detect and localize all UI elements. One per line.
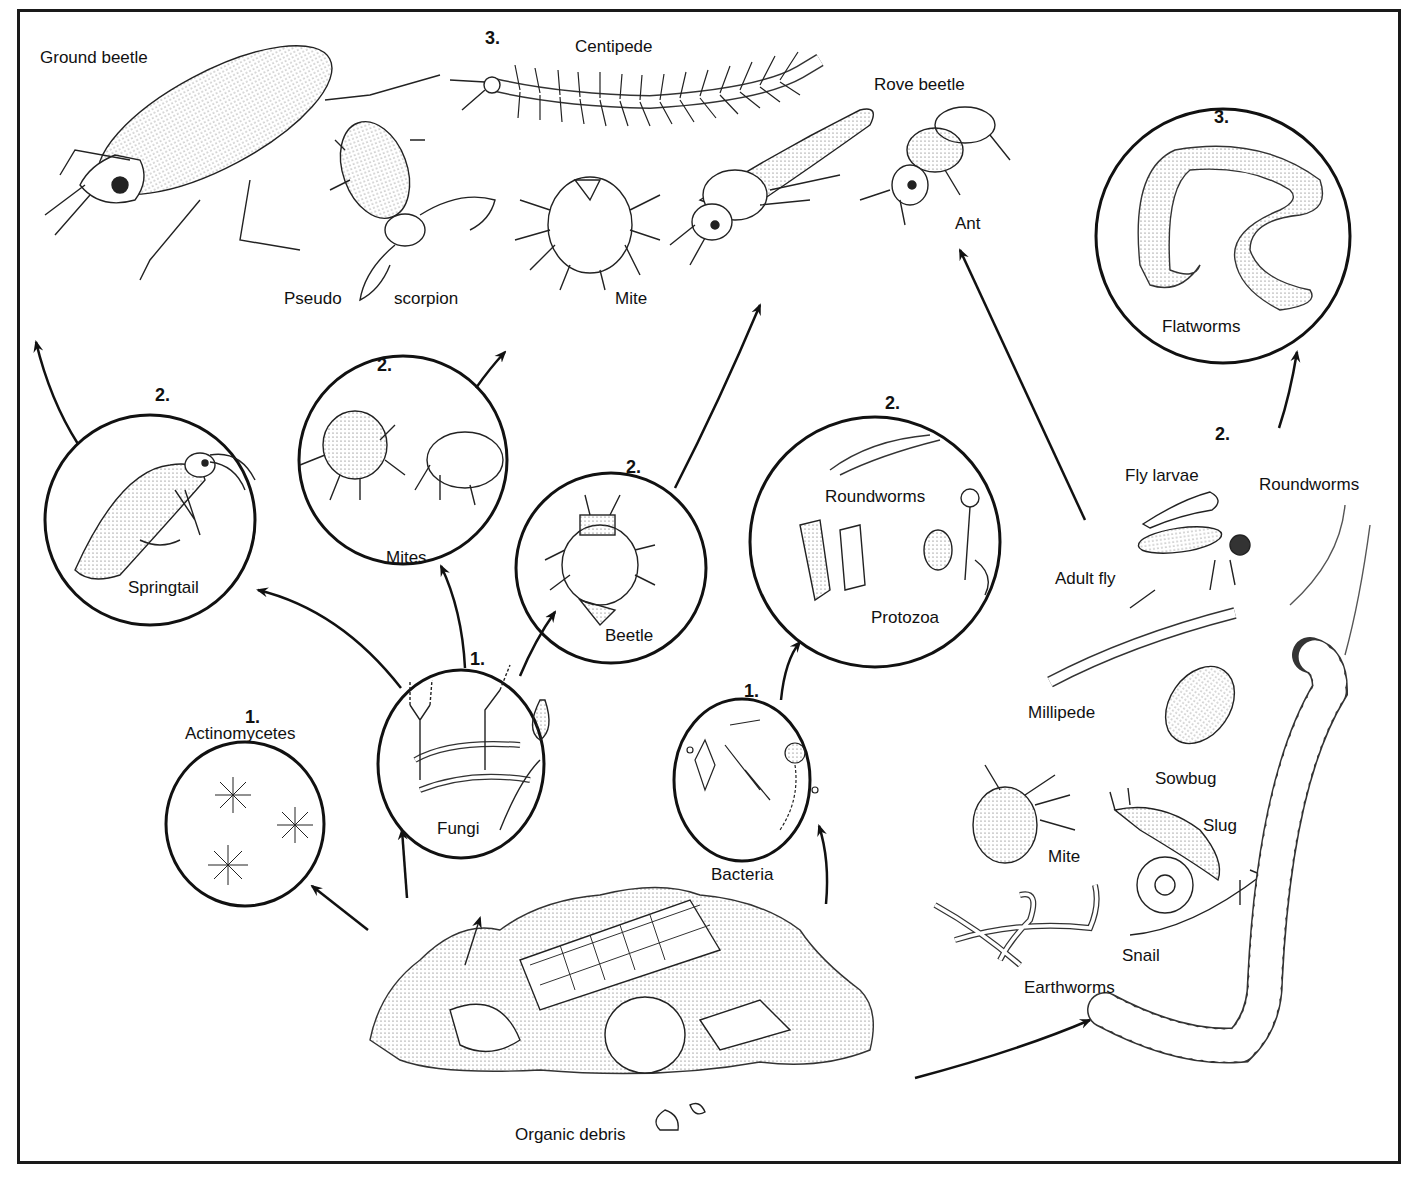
level-2-beetle-number: 2. <box>626 458 641 476</box>
mites-icon <box>300 411 503 505</box>
actinomycetes-circle <box>166 742 324 906</box>
level-1-bacteria-number: 1. <box>744 682 759 700</box>
centipede-icon <box>450 52 820 126</box>
fungi-icon <box>410 665 549 830</box>
label-actinomycetes: Actinomycetes <box>185 725 296 742</box>
snail-icon <box>1130 857 1262 935</box>
label-roundworms-circle: Roundworms <box>825 488 925 505</box>
arrow-debris-to-actinomycetes <box>312 886 368 930</box>
label-mites: Mites <box>386 549 427 566</box>
level-1-fungi-number: 1. <box>470 650 485 668</box>
level-3-flatworms-number: 3. <box>1214 108 1229 126</box>
label-organic-debris: Organic debris <box>515 1126 626 1143</box>
pseudoscorpion-icon <box>328 112 495 300</box>
label-roundworms-detritivore: Roundworms <box>1259 476 1359 493</box>
level-2-mites-number: 2. <box>377 356 392 374</box>
adult-fly-icon <box>1130 522 1250 608</box>
beetle-icon <box>545 495 655 625</box>
arrow-fungi-to-beetle <box>520 612 555 676</box>
label-flatworms: Flatworms <box>1162 318 1240 335</box>
label-fungi: Fungi <box>437 820 480 837</box>
arrow-springtail-to-predators <box>36 342 78 444</box>
level-2-protozoa-number: 2. <box>885 394 900 412</box>
mite-predator-icon <box>515 177 660 290</box>
roundworms-protozoa-icon <box>800 435 988 600</box>
level-2-springtail-number: 2. <box>155 386 170 404</box>
flatworm-icon <box>1138 146 1322 310</box>
arrow-debris-to-fungi <box>402 830 407 898</box>
label-rove-beetle: Rove beetle <box>874 76 965 93</box>
actinomycetes-icon <box>208 777 313 885</box>
label-ground-beetle: Ground beetle <box>40 49 148 66</box>
arrow-debris-to-bacteria <box>819 826 827 904</box>
arrow-bacteria-to-protozoa <box>781 642 800 700</box>
label-ant: Ant <box>955 215 981 232</box>
label-bacteria: Bacteria <box>711 866 773 883</box>
arrow-mites-to-predators <box>476 352 505 388</box>
label-slug: Slug <box>1203 817 1237 834</box>
arrow-detritivores-to-predators <box>960 250 1085 520</box>
label-centipede: Centipede <box>575 38 653 55</box>
fly-roundworms-icon <box>1290 505 1370 655</box>
ant-icon <box>860 107 1010 225</box>
arrow-beetle-to-predators <box>675 305 760 488</box>
fly-larvae-icon <box>1143 492 1218 528</box>
label-adult-fly: Adult fly <box>1055 570 1115 587</box>
label-sowbug: Sowbug <box>1155 770 1216 787</box>
organic-debris-icon <box>370 888 873 1131</box>
label-fly-larvae: Fly larvae <box>1125 467 1199 484</box>
level-2-detritivores-number: 2. <box>1215 425 1230 443</box>
rove-beetle-icon <box>670 109 873 265</box>
arrow-detritivores-to-flatworms <box>1279 352 1297 428</box>
label-snail: Snail <box>1122 947 1160 964</box>
roundworms-protozoa-circle <box>750 417 1000 667</box>
label-earthworms: Earthworms <box>1024 979 1115 996</box>
label-mite-detritivore: Mite <box>1048 848 1080 865</box>
label-mite-predator: Mite <box>615 290 647 307</box>
label-beetle: Beetle <box>605 627 653 644</box>
arrow-fungi-to-springtail <box>258 590 401 688</box>
arrow-debris-to-detritivores <box>915 1020 1090 1078</box>
springtail-icon <box>75 453 255 579</box>
level-3-predators-number: 3. <box>485 29 500 47</box>
label-millipede: Millipede <box>1028 704 1095 721</box>
label-scorpion: scorpion <box>394 290 458 307</box>
sowbug-icon <box>1151 653 1248 756</box>
label-protozoa: Protozoa <box>871 609 939 626</box>
label-springtail: Springtail <box>128 579 199 596</box>
food-web-artwork <box>0 0 1425 1181</box>
label-pseudo: Pseudo <box>284 290 342 307</box>
earthworms-small-icon <box>935 885 1097 965</box>
arrow-fungi-to-mites <box>441 566 465 668</box>
